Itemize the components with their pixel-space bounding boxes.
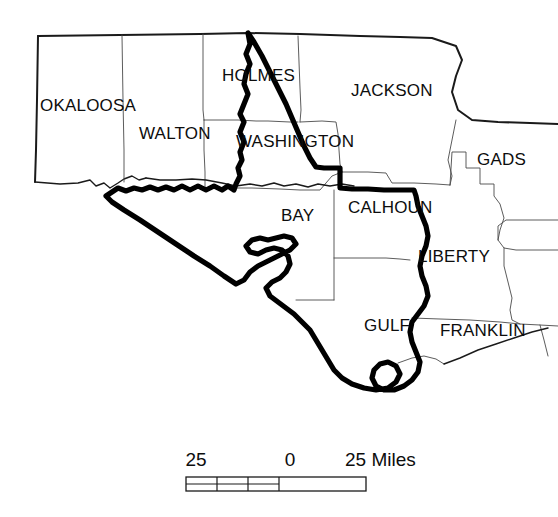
county-label-bay: BAY: [281, 206, 314, 225]
county-label-calhoun: CALHOUN: [348, 198, 433, 217]
county-label-gulf: GULF: [364, 316, 410, 335]
county-label-holmes: HOLMES: [222, 66, 295, 85]
scale-label-right: 25 Miles: [345, 449, 416, 470]
county-label-liberty: LIBERTY: [418, 247, 490, 266]
map-figure: OKALOOSA WALTON HOLMES JACKSON WASHINGTO…: [0, 0, 558, 517]
county-label-jackson: JACKSON: [351, 81, 433, 100]
scale-label-center: 0: [285, 449, 296, 470]
county-label-washington: WASHINGTON: [236, 132, 354, 151]
county-label-walton: WALTON: [139, 124, 211, 143]
county-label-gadsden: GADS: [477, 150, 526, 169]
map-canvas: OKALOOSA WALTON HOLMES JACKSON WASHINGTO…: [0, 0, 558, 517]
county-label-franklin: FRANKLIN: [440, 321, 526, 340]
county-label-okaloosa: OKALOOSA: [40, 96, 137, 115]
scale-label-left: 25: [185, 449, 206, 470]
